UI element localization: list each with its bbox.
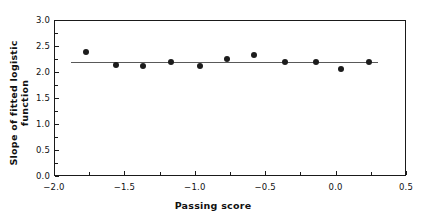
y-tick-major — [55, 46, 59, 47]
y-tick-minor — [55, 111, 58, 112]
x-tick-label: 0.0 — [329, 182, 343, 192]
y-tick-label: 3.0 — [36, 15, 50, 25]
y-tick-major — [55, 150, 59, 151]
x-tick-label: −1.5 — [114, 182, 135, 192]
x-tick-major — [265, 171, 266, 175]
x-tick-major — [336, 171, 337, 175]
y-tick-minor — [55, 33, 58, 34]
y-tick-minor — [55, 85, 58, 86]
x-tick-major — [195, 171, 196, 175]
x-tick-minor — [230, 172, 231, 175]
y-axis-title: Slope of fitted logistic function — [8, 18, 30, 188]
data-point — [251, 52, 257, 58]
y-tick-major — [55, 124, 59, 125]
x-tick-major — [406, 171, 407, 175]
x-tick-major — [54, 171, 55, 175]
data-point — [224, 56, 230, 62]
data-point — [366, 59, 372, 65]
y-tick-label: 0.0 — [36, 171, 50, 181]
data-point — [83, 49, 89, 55]
data-point — [338, 66, 344, 72]
data-point — [197, 63, 203, 69]
data-point — [282, 59, 288, 65]
x-tick-minor — [371, 172, 372, 175]
x-tick-label: 0.5 — [399, 182, 413, 192]
data-point — [313, 59, 319, 65]
y-tick-minor — [55, 59, 58, 60]
y-tick-major — [55, 98, 59, 99]
plot-area — [54, 20, 406, 176]
data-point — [140, 63, 146, 69]
y-tick-major — [55, 176, 59, 177]
y-tick-label: 2.0 — [36, 67, 50, 77]
data-point — [113, 62, 119, 68]
y-tick-label: 1.0 — [36, 119, 50, 129]
y-tick-minor — [55, 137, 58, 138]
x-tick-label: −0.5 — [254, 182, 275, 192]
y-tick-minor — [55, 163, 58, 164]
scatter-plot-figure: −2.0−1.5−1.0−0.50.00.5 0.00.51.01.52.02.… — [0, 0, 426, 224]
data-point — [168, 59, 174, 65]
x-tick-minor — [160, 172, 161, 175]
y-tick-label: 2.5 — [36, 41, 50, 51]
y-tick-major — [55, 72, 59, 73]
x-tick-label: −1.0 — [184, 182, 205, 192]
x-tick-minor — [300, 172, 301, 175]
x-tick-major — [124, 171, 125, 175]
y-tick-major — [55, 20, 59, 21]
y-tick-label: 0.5 — [36, 145, 50, 155]
x-axis-title: Passing score — [0, 200, 426, 211]
y-tick-label: 1.5 — [36, 93, 50, 103]
x-tick-minor — [89, 172, 90, 175]
x-tick-label: −2.0 — [43, 182, 64, 192]
